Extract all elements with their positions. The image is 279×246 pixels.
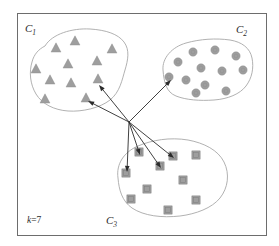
data-point-c2-9-core	[203, 83, 207, 87]
data-point-c2-5-core	[167, 75, 171, 79]
data-point-c2-3-core	[176, 60, 180, 64]
data-point-c3-8-core	[194, 198, 199, 203]
data-point-c2-7-core	[241, 68, 245, 72]
data-point-c3-7-core	[129, 197, 134, 202]
data-point-c3-6-core	[145, 187, 150, 192]
cluster-diagram-figure: C1C2C3k=7	[0, 0, 279, 246]
data-point-c3-9-core	[166, 208, 171, 213]
data-point-c2-2-core	[234, 54, 238, 58]
data-point-c3-1-core	[124, 171, 129, 176]
data-point-c2-11-core	[224, 89, 228, 93]
data-point-c2-1-core	[213, 48, 217, 52]
data-point-c2-0-core	[191, 50, 195, 54]
cluster-label-c2-subscript: 2	[243, 29, 247, 38]
data-point-c3-4-core	[194, 153, 199, 158]
k-value-label: k=7	[27, 215, 42, 225]
data-point-c2-8-core	[184, 78, 188, 82]
cluster-diagram-canvas: C1C2C3k=7	[0, 0, 279, 246]
cluster-label-c1-subscript: 1	[32, 28, 36, 37]
data-point-c2-6-core	[220, 69, 224, 73]
data-point-c2-4-core	[199, 66, 203, 70]
k-label-value: =7	[31, 215, 41, 225]
data-point-c2-10-core	[194, 91, 198, 95]
cluster-label-c3-subscript: 3	[112, 220, 117, 229]
data-point-c3-5-core	[181, 178, 186, 183]
